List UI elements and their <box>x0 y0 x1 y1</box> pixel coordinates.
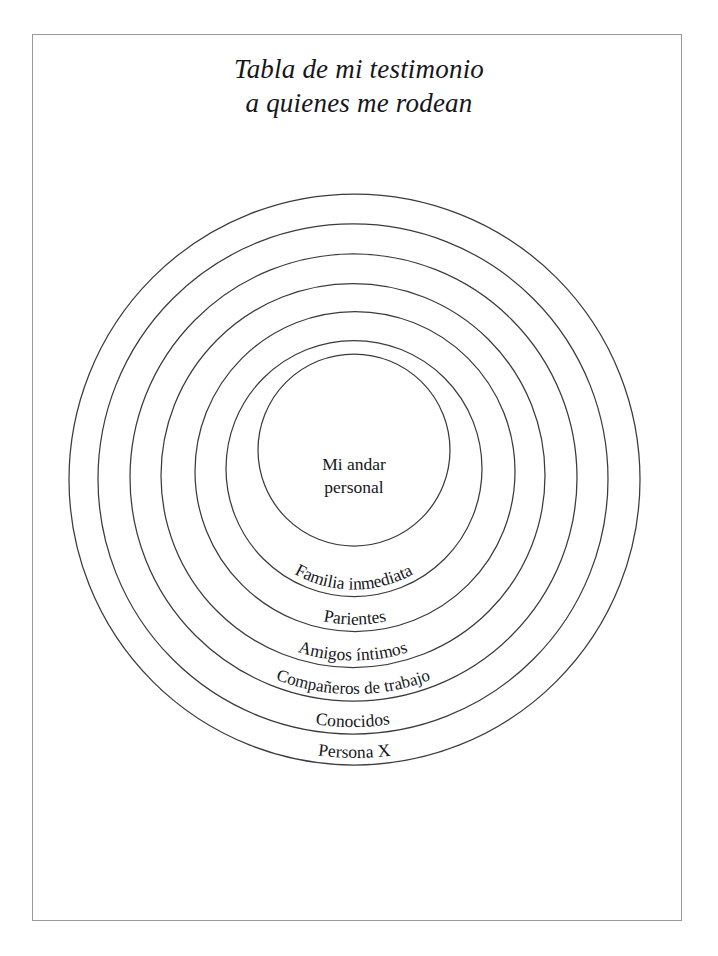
center-label-line-2: personal <box>324 477 383 497</box>
center-label-line-1: Mi andar <box>322 454 386 474</box>
ring-circle-inner-center <box>258 354 450 546</box>
ring-label-persona-x: Persona X <box>317 740 391 762</box>
ring-label-amigos-intimos: Amigos íntimos <box>296 637 409 665</box>
ring-label-companeros-de-trabajo: Compañeros de trabajo <box>274 665 433 698</box>
page-canvas: Tabla de mi testimonio a quienes me rode… <box>0 0 718 956</box>
ring-label-parientes: Parientes <box>322 605 387 628</box>
ring-label-conocidos: Conocidos <box>315 708 391 731</box>
concentric-rings-diagram: Mi andar personal Familia inmediata Pari… <box>0 0 718 956</box>
